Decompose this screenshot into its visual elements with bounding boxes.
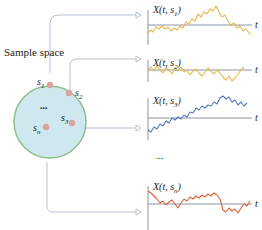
axis-t-1: t — [255, 19, 258, 30]
dot-s2 — [66, 90, 72, 96]
plot-label-s3: X(t, s3) — [153, 95, 181, 109]
ellipsis-between-plots: ... — [156, 150, 164, 161]
axis-t-3: t — [255, 112, 258, 123]
label-sn: sn — [33, 122, 40, 136]
dot-s3 — [69, 120, 75, 126]
plot-label-s2: X(t, s2) — [153, 57, 181, 71]
random-process-diagram: Sample space s1 s2 s3 sn ... X(t, s1) t … — [0, 0, 262, 230]
plot-label-sn: X(t, sn) — [153, 181, 181, 195]
connector-s1 — [50, 15, 136, 73]
label-s3: s3 — [61, 112, 68, 126]
label-s2: s2 — [75, 87, 82, 101]
diagram-graphics — [0, 0, 262, 230]
axis-t-n: t — [255, 198, 258, 209]
sample-space-title: Sample space — [4, 46, 64, 58]
ellipsis-in-circle: ... — [40, 100, 48, 111]
plot-label-s1: X(t, s1) — [153, 4, 181, 18]
axis-t-2: t — [255, 64, 258, 75]
connector-sn — [47, 162, 136, 212]
dot-s1 — [47, 82, 53, 88]
dot-sn — [43, 124, 49, 130]
label-s1: s1 — [37, 76, 44, 90]
